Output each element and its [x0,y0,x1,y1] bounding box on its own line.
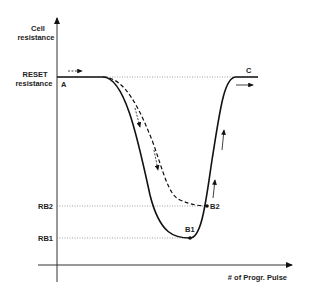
dashed-arrow-down-icon [135,108,140,127]
y-axis-label-line1: Cell [31,24,45,33]
point-a-label: A [61,80,67,89]
point-b2-dot [205,204,209,208]
dashed-arrow-down-icon [154,150,158,170]
x-axis-label: # of Progr. Pulse [228,273,287,282]
point-b1-dot [188,236,192,240]
arrow-up-icon [213,180,215,198]
reset-label-line1: RESET [22,70,47,79]
rb1-label: RB1 [38,234,53,243]
dashed-curve [103,77,207,206]
point-b1-label: B1 [185,225,195,234]
solid-curve [57,77,258,238]
arrow-up-icon [222,130,224,150]
resistance-diagram: Cell resistance RESET resistance A C RB2… [0,0,309,293]
reset-label-line2: resistance [15,79,52,88]
point-c-label: C [246,66,252,75]
y-axis-label-line2: resistance [17,33,54,42]
rb2-label: RB2 [38,202,53,211]
point-b2-label: B2 [210,202,220,211]
